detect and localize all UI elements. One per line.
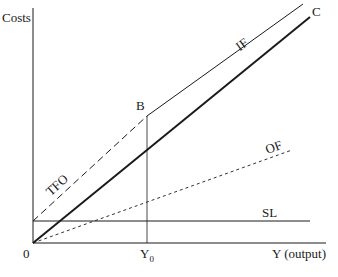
y0-label-main: Y [140, 246, 149, 261]
x-axis-label: Y (output) [272, 247, 326, 260]
point-b-label: B [136, 99, 145, 112]
if-line [147, 4, 303, 116]
tfo-line [33, 116, 147, 221]
y-axis-label: Costs [2, 11, 31, 24]
of-line [33, 150, 292, 243]
y0-label: Y0 [140, 247, 154, 264]
c-curve-label: C [312, 5, 321, 18]
y0-label-sub: 0 [149, 254, 154, 264]
origin-label: 0 [23, 247, 30, 260]
cost-diagram [0, 0, 338, 277]
sl-curve-label: SL [262, 206, 277, 219]
